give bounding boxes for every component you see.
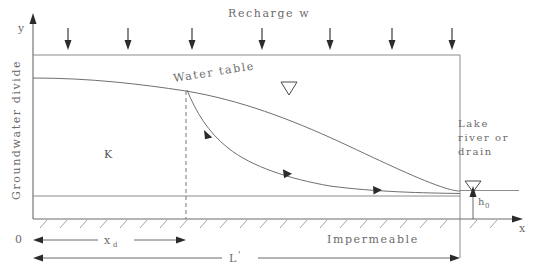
- origin-label: 0: [15, 233, 24, 246]
- aquifer-length-dimension: [33, 250, 460, 266]
- recharge-arrows-group: [65, 28, 456, 50]
- water-table-label: Water table: [172, 59, 255, 85]
- water-level-triangle-icon: [281, 82, 297, 95]
- groundwater-divide-label: Groundwater divide: [10, 60, 23, 200]
- flowline-arrowhead: [373, 186, 382, 195]
- diagram-canvas: y x 0 Recharge w Groundwater divide Wate…: [0, 0, 539, 273]
- water-table-curve: [33, 78, 460, 191]
- head-boundary-label: h 0: [478, 196, 491, 210]
- y-axis-arrowhead: [30, 13, 37, 24]
- recharge-arrow: [389, 28, 396, 50]
- x-axis-label: x: [519, 222, 527, 235]
- recharge-arrow: [125, 28, 132, 50]
- recharge-arrow: [189, 28, 196, 50]
- lake-label-line-1: Lake: [458, 118, 489, 129]
- aquifer-length-symbol: L: [229, 252, 238, 265]
- divide-distance-symbol: x: [104, 234, 112, 247]
- aquifer-length-prime: ': [238, 250, 242, 260]
- y-axis-label: y: [17, 22, 26, 35]
- y-axis: [30, 13, 37, 219]
- recharge-arrow: [65, 28, 72, 50]
- recharge-arrow: [449, 28, 456, 50]
- head-boundary-subscript: 0: [485, 202, 491, 210]
- lake-label-line-2: river or: [458, 132, 509, 143]
- lake-label-line-3: drain: [458, 146, 493, 157]
- impermeable-hatching: [40, 220, 497, 228]
- x-axis: [33, 216, 523, 223]
- impermeable-label: Impermeable: [327, 233, 419, 246]
- recharge-label: Recharge w: [228, 7, 310, 20]
- hydraulic-conductivity-label: K: [104, 148, 114, 161]
- divide-distance-subscript: d: [113, 241, 119, 249]
- hydrogeology-diagram: y x 0 Recharge w Groundwater divide Wate…: [0, 0, 539, 273]
- recharge-arrow: [259, 28, 266, 50]
- recharge-arrow: [327, 28, 334, 50]
